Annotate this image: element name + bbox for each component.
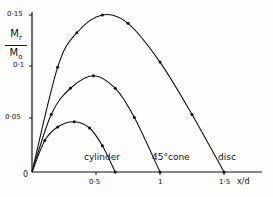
data-point (43, 139, 46, 142)
data-point (56, 66, 59, 69)
data-point (101, 13, 104, 16)
data-point (159, 61, 162, 64)
y-tick-01: 0·1 (13, 61, 24, 69)
data-point (92, 74, 95, 77)
x-tick-1: 1 (158, 178, 162, 186)
chart-figure: Mr Mo 0·15 0·1 0·05 0 0·5 1 1·5 x/d cyli… (0, 0, 273, 197)
x-tick-05: 0·5 (89, 178, 100, 186)
x-tick-15: 1·5 (219, 178, 230, 186)
origin-label: 0 (23, 170, 28, 179)
data-point (114, 87, 117, 90)
y-tick-005: 0·05 (5, 113, 21, 121)
data-point (191, 113, 194, 116)
chart-plot (0, 0, 273, 197)
curve-disc (32, 14, 224, 172)
data-point (69, 87, 72, 90)
data-point (133, 116, 136, 119)
x-axis-label: x/d (237, 177, 250, 186)
y-axis-label: Mr Mo (5, 28, 27, 63)
data-point (127, 22, 130, 25)
series-curves (32, 14, 224, 172)
label-cone: 45°cone (152, 152, 190, 162)
data-point (56, 125, 59, 128)
data-point (101, 144, 104, 147)
data-point (73, 120, 76, 123)
data-point (50, 113, 53, 116)
data-point (88, 127, 91, 130)
y-tick-015: 0·15 (7, 10, 23, 18)
data-point (75, 31, 78, 34)
label-cylinder: cylinder (84, 152, 120, 162)
series-points (43, 13, 225, 173)
label-disc: disc (218, 152, 236, 162)
